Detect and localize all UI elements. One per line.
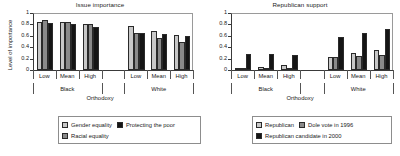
axis-separator-tick xyxy=(170,70,171,79)
bar xyxy=(162,34,167,70)
axis-separator-tick xyxy=(347,70,348,79)
bar-series-left xyxy=(34,14,192,70)
legend-swatch-icon xyxy=(299,122,305,128)
category-label-black-mean: Mean xyxy=(254,70,277,83)
axis-separator-tick xyxy=(254,70,255,79)
y-tick-label: 0.6 xyxy=(21,33,29,39)
axis-separator-tick xyxy=(79,70,80,79)
y-tick-label: 0.2 xyxy=(21,56,29,62)
bar xyxy=(362,33,367,70)
legend-swatch-icon xyxy=(256,133,262,139)
bar xyxy=(338,37,343,70)
y-tick-label: 0.2 xyxy=(219,56,227,62)
legend-row-2-right: Republican candidate in 2000 xyxy=(256,130,388,141)
group-separator-tick xyxy=(102,83,103,94)
group-separator-tick xyxy=(324,83,325,94)
panel-title-left: Issue importance xyxy=(0,1,200,8)
bar xyxy=(385,29,390,70)
category-labels-right: LowMeanHighLowMeanHigh xyxy=(231,70,393,83)
y-tick-label: 0.6 xyxy=(219,33,227,39)
category-label-white-high: High xyxy=(170,70,193,83)
legend-swatch-icon xyxy=(62,133,68,139)
axis-separator-tick xyxy=(393,70,394,79)
bar xyxy=(269,54,274,70)
plot-area-right xyxy=(231,13,393,70)
legend-entry-republican-candidate-2000: Republican candidate in 2000 xyxy=(256,133,341,139)
axis-separator-tick xyxy=(147,70,148,79)
legend-swatch-icon xyxy=(117,122,123,128)
legend-entry-republican: Republican xyxy=(256,122,294,128)
y-tick-label: 0.4 xyxy=(219,44,227,50)
category-labels-left: LowMeanHighLowMeanHigh xyxy=(33,70,193,83)
axis-separator-tick xyxy=(193,70,194,79)
category-label-black-low: Low xyxy=(33,70,56,83)
category-label-white-high: High xyxy=(370,70,393,83)
legend-label: Racial equality xyxy=(71,133,109,139)
y-tick-label: 0.4 xyxy=(21,44,29,50)
group-separator-tick xyxy=(300,83,301,94)
category-label-black-high: High xyxy=(277,70,300,83)
legend-label: Gender equality xyxy=(71,122,112,128)
legend-label: Dole vote in 1996 xyxy=(308,122,353,128)
category-label-black-high: High xyxy=(79,70,102,83)
x-axis-label-left: Orthodoxy xyxy=(0,95,200,101)
bar xyxy=(292,55,297,70)
legend-row-1-right: Republican Dole vote in 1996 xyxy=(256,119,388,130)
category-label-white-mean: Mean xyxy=(147,70,170,83)
axis-separator-tick xyxy=(124,70,125,79)
plot-area-left xyxy=(33,13,193,70)
axis-separator-tick xyxy=(231,70,232,79)
y-axis-label-left: Level of importance xyxy=(7,14,13,76)
legend-label: Republican xyxy=(265,122,294,128)
panel-republican-support: Republican support 00.20.40.60.81 LowMea… xyxy=(200,0,400,156)
y-tick-label: 0.8 xyxy=(21,21,29,27)
panel-issue-importance: Issue importance Level of importance 00.… xyxy=(0,0,200,156)
axis-separator-tick xyxy=(300,70,301,79)
panel-title-right: Republican support xyxy=(200,1,400,8)
axis-separator-tick xyxy=(277,70,278,79)
legend-entry-protecting-the-poor: Protecting the poor xyxy=(117,122,175,128)
group-separator-tick xyxy=(193,83,194,94)
bar xyxy=(185,36,190,70)
legend-row-1-left: Gender equality Protecting the poor xyxy=(62,119,197,130)
legend-entry-racial-equality: Racial equality xyxy=(62,133,109,139)
legend-entry-gender-equality: Gender equality xyxy=(62,122,112,128)
axis-separator-tick xyxy=(33,70,34,79)
legend-swatch-icon xyxy=(256,122,262,128)
x-axis-label-right: Orthodoxy xyxy=(200,95,400,101)
legend-label: Republican candidate in 2000 xyxy=(265,133,341,139)
y-tick-label: 1 xyxy=(26,10,29,16)
y-tick-label: 0.8 xyxy=(219,21,227,27)
axis-separator-tick xyxy=(102,70,103,79)
legend-left: Gender equality Protecting the poor Raci… xyxy=(58,116,201,144)
legend-right: Republican Dole vote in 1996 Republican … xyxy=(252,116,392,144)
bar xyxy=(139,33,144,70)
bar xyxy=(246,54,251,70)
y-tick-label: 1 xyxy=(224,10,227,16)
figure-two-panel-bar-charts: Issue importance Level of importance 00.… xyxy=(0,0,400,156)
y-tick-label: 0 xyxy=(26,67,29,73)
category-label-black-mean: Mean xyxy=(56,70,79,83)
legend-swatch-icon xyxy=(62,122,68,128)
group-separator-tick xyxy=(33,83,34,94)
category-label-white-mean: Mean xyxy=(347,70,370,83)
bar xyxy=(48,23,53,70)
category-label-white-low: Low xyxy=(324,70,347,83)
group-separator-tick xyxy=(393,83,394,94)
axis-separator-tick xyxy=(56,70,57,79)
group-separator-tick xyxy=(124,83,125,94)
legend-entry-dole-vote-1996: Dole vote in 1996 xyxy=(299,122,353,128)
bar-series-right xyxy=(232,14,392,70)
category-label-black-low: Low xyxy=(231,70,254,83)
legend-label: Protecting the poor xyxy=(126,122,175,128)
y-tick-label: 0 xyxy=(224,67,227,73)
bar xyxy=(93,27,98,70)
legend-row-2-left: Racial equality xyxy=(62,130,197,141)
axis-separator-tick xyxy=(324,70,325,79)
bar xyxy=(71,24,76,70)
group-separator-tick xyxy=(231,83,232,94)
axis-separator-tick xyxy=(370,70,371,79)
category-label-white-low: Low xyxy=(124,70,147,83)
